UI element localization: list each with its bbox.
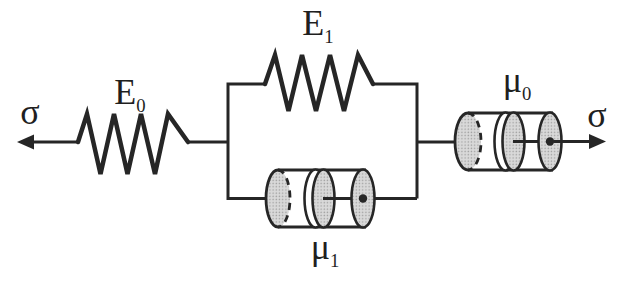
label-mu0: μ0 bbox=[503, 62, 532, 104]
label-E1: E1 bbox=[302, 5, 333, 47]
label-sigma-right: σ bbox=[587, 97, 606, 133]
spring-E1 bbox=[265, 55, 373, 111]
sigma-left-text: σ bbox=[20, 92, 39, 132]
E0-base-text: E bbox=[114, 72, 136, 112]
mu0-subscript-text: 0 bbox=[522, 83, 531, 104]
E1-base-text: E bbox=[302, 3, 324, 43]
spring-E0 bbox=[78, 114, 188, 174]
mu1-base-text: μ bbox=[311, 227, 330, 267]
label-E0: E0 bbox=[114, 74, 145, 116]
mu1-subscript-text: 1 bbox=[330, 250, 339, 271]
E0-subscript-text: 0 bbox=[136, 95, 145, 116]
E1-subscript-text: 1 bbox=[324, 26, 333, 47]
sigma-arrow-left bbox=[17, 135, 79, 150]
box-right-frame bbox=[372, 84, 417, 199]
label-mu1: μ1 bbox=[311, 229, 340, 271]
mu0-base-text: μ bbox=[503, 60, 522, 100]
arrowhead-left-icon bbox=[17, 135, 34, 150]
sigma-right-text: σ bbox=[587, 95, 606, 135]
box-left-frame bbox=[228, 84, 268, 199]
viscoelastic-model-diagram: σ E0 E1 μ0 μ1 σ bbox=[0, 0, 626, 282]
arrowhead-right-icon bbox=[589, 134, 606, 149]
dashpot-mu0-rod-pin bbox=[546, 137, 554, 145]
label-sigma-left: σ bbox=[20, 94, 39, 130]
dashpot-mu1-rod-pin bbox=[359, 194, 367, 202]
dashpot-mu1 bbox=[266, 170, 417, 228]
